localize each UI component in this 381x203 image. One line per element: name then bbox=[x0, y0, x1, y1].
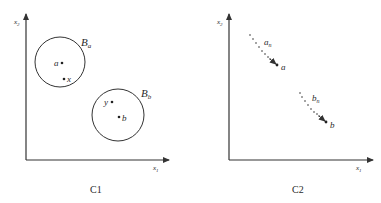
point-x bbox=[63, 78, 66, 81]
point-a bbox=[61, 62, 64, 65]
sequence-an-label: an bbox=[264, 37, 272, 48]
limit-a-label: a bbox=[281, 62, 286, 72]
limit-b-label: b bbox=[330, 120, 335, 130]
c2-x-axis-label: x1 bbox=[355, 164, 362, 173]
sequence-bn-label: bn bbox=[312, 93, 320, 104]
point-x-label: x bbox=[66, 74, 71, 84]
ball-bb: Bb y b bbox=[92, 87, 152, 141]
c2-axes: x2 x1 bbox=[216, 14, 373, 173]
panel-c2: x2 x1 an a bbox=[216, 14, 373, 195]
c1-x-axis-label: x1 bbox=[152, 164, 159, 173]
diagram-canvas: x2 x1 Ba a x Bb y b C1 x2 x1 bbox=[0, 0, 381, 203]
caption-c1: C1 bbox=[90, 184, 102, 195]
ball-bb-circle bbox=[92, 89, 144, 141]
limit-point-b bbox=[325, 121, 328, 124]
ball-ba-label: Ba bbox=[81, 36, 92, 50]
limit-point-a bbox=[276, 64, 279, 67]
sequence-an-arrow bbox=[270, 59, 276, 64]
sequence-bn: bn b bbox=[299, 92, 335, 130]
point-b bbox=[118, 116, 121, 119]
sequence-bn-dots bbox=[299, 92, 320, 117]
sequence-bn-arrow bbox=[319, 116, 325, 121]
caption-c2: C2 bbox=[292, 184, 304, 195]
c2-y-axis-label: x2 bbox=[216, 18, 223, 27]
ball-bb-label: Bb bbox=[141, 87, 152, 101]
point-y bbox=[111, 101, 114, 104]
c1-y-axis-label: x2 bbox=[13, 18, 20, 27]
point-b-label: b bbox=[122, 113, 127, 123]
sequence-an: an a bbox=[249, 34, 286, 72]
point-y-label: y bbox=[103, 97, 108, 107]
ball-ba-circle bbox=[35, 37, 85, 87]
ball-ba: Ba a x bbox=[35, 36, 92, 87]
point-a-label: a bbox=[54, 58, 59, 68]
panel-c1: x2 x1 Ba a x Bb y b C1 bbox=[13, 14, 169, 195]
